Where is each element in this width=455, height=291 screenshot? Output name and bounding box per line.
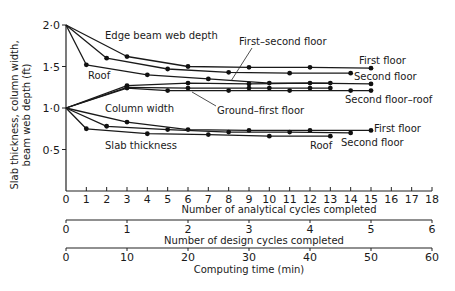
- data-point: [186, 81, 191, 86]
- secondary-tick-label: 0: [63, 251, 70, 264]
- secondary-tick-label: 30: [242, 251, 256, 264]
- data-point: [369, 82, 374, 87]
- data-point: [165, 67, 170, 72]
- data-point: [348, 71, 353, 76]
- x-tick-label: 0: [63, 193, 70, 206]
- label-edge-beam: Edge beam web depth: [105, 30, 218, 41]
- data-point: [247, 65, 252, 70]
- label-roof-beam: Roof: [88, 70, 111, 81]
- x-tick-label: 2: [103, 193, 110, 206]
- secondary-tick-label: 0: [63, 223, 70, 236]
- label-first-floor-beam: First floor: [359, 55, 407, 66]
- data-point: [287, 88, 292, 93]
- convergence-chart: 0·51·01·52·00123456789101112131415161718…: [0, 0, 455, 291]
- data-point: [206, 132, 211, 137]
- data-point: [145, 72, 150, 77]
- secondary-tick-label: 10: [120, 251, 134, 264]
- label-second-floor-slab: Second floor: [341, 137, 405, 148]
- secondary-tick-label: 60: [425, 251, 439, 264]
- data-point: [186, 64, 191, 69]
- data-point: [226, 70, 231, 75]
- time-axis-title: Computing time (min): [194, 264, 305, 275]
- label-second-roof: Second floor–roof: [345, 94, 433, 105]
- data-point: [287, 71, 292, 76]
- x-axis-title: Number of analytical cycles completed: [181, 204, 376, 215]
- y-tick-label: 0·5: [43, 144, 61, 157]
- secondary-tick-label: 50: [364, 251, 378, 264]
- label-ground-first: Ground–first floor: [217, 105, 305, 116]
- label-first-second: First–second floor: [239, 36, 327, 47]
- data-point: [247, 82, 252, 87]
- data-point: [369, 128, 374, 133]
- data-point: [287, 130, 292, 135]
- y-tick-label: 2·0: [43, 19, 61, 32]
- data-point: [328, 134, 333, 139]
- data-point: [308, 65, 313, 70]
- data-point: [125, 86, 130, 91]
- data-point: [104, 56, 109, 61]
- secondary-tick-label: 5: [368, 223, 375, 236]
- design-axis-title: Number of design cycles completed: [164, 235, 344, 246]
- pointer-ground-first: [192, 92, 216, 106]
- data-point: [104, 124, 109, 129]
- data-point: [145, 131, 150, 136]
- secondary-tick-label: 40: [303, 251, 317, 264]
- data-point: [186, 127, 191, 132]
- data-point: [267, 86, 272, 91]
- data-point: [84, 126, 89, 131]
- data-point: [125, 120, 130, 125]
- label-first-floor-slab: First floor: [374, 123, 422, 134]
- secondary-tick-label: 1: [124, 223, 131, 236]
- x-tick-label: 5: [164, 193, 171, 206]
- y-axis-label: Slab thickness, column width,: [9, 40, 20, 189]
- y-tick-label: 1·5: [43, 61, 61, 74]
- data-point: [226, 88, 231, 93]
- x-tick-label: 18: [425, 193, 439, 206]
- data-point: [84, 62, 89, 67]
- data-point: [125, 54, 130, 59]
- data-point: [186, 86, 191, 91]
- data-point: [165, 127, 170, 132]
- secondary-tick-label: 6: [429, 223, 436, 236]
- data-series: [66, 25, 373, 139]
- x-tick-label: 16: [384, 193, 398, 206]
- data-point: [226, 130, 231, 135]
- y-tick-label: 1·0: [43, 102, 61, 115]
- label-roof-slab: Roof: [310, 140, 333, 151]
- data-point: [267, 134, 272, 139]
- data-point: [348, 88, 353, 93]
- x-tick-label: 3: [124, 193, 131, 206]
- y-axis-label-line2: beam web depth (ft): [21, 64, 32, 167]
- x-tick-label: 4: [144, 193, 151, 206]
- x-tick-label: 1: [83, 193, 90, 206]
- x-tick-label: 17: [405, 193, 419, 206]
- data-point: [369, 66, 374, 71]
- data-point: [328, 86, 333, 91]
- data-point: [165, 88, 170, 93]
- data-point: [308, 86, 313, 91]
- data-point: [369, 88, 374, 93]
- data-point: [247, 86, 252, 91]
- secondary-tick-label: 20: [181, 251, 195, 264]
- data-point: [308, 81, 313, 86]
- data-point: [348, 131, 353, 136]
- pointer-first-second: [231, 48, 252, 81]
- label-slab-thickness: Slab thickness: [105, 140, 177, 151]
- data-point: [206, 77, 211, 82]
- label-column-width: Column width: [105, 103, 174, 114]
- label-second-floor-beam: Second floor: [354, 71, 418, 82]
